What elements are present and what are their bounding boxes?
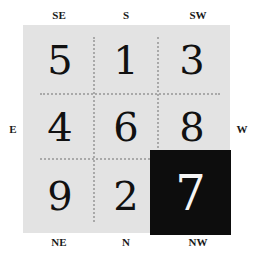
label-sw: SW: [189, 9, 206, 21]
cell-ne: 9: [28, 163, 92, 228]
cell-sw: 3: [160, 30, 224, 90]
label-nw: NW: [189, 236, 208, 248]
cell-n: 2: [95, 163, 157, 228]
cell-center: 6: [95, 97, 157, 157]
cell-s: 1: [95, 30, 157, 90]
divider-horizontal-1: [40, 93, 220, 95]
magic-square-grid: 5 1 3 4 6 8 9 2 7: [23, 25, 230, 233]
divider-horizontal-2: [40, 158, 150, 160]
cell-e: 4: [28, 97, 92, 157]
cell-se: 5: [28, 30, 92, 90]
cell-w: 8: [160, 97, 224, 157]
label-w: W: [237, 123, 248, 135]
cell-nw-highlighted: 7: [150, 150, 231, 235]
label-n: N: [122, 236, 130, 248]
label-ne: NE: [51, 236, 66, 248]
label-e: E: [9, 123, 16, 135]
label-se: SE: [52, 9, 65, 21]
label-s: S: [123, 9, 129, 21]
